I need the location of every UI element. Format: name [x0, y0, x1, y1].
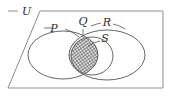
venn-diagram-figure: U P Q R S [0, 0, 171, 104]
set-label-s: S [101, 32, 109, 45]
venn-diagram-canvas: U P Q R S [0, 0, 171, 104]
set-label-q: Q [78, 15, 87, 28]
set-label-r: R [102, 16, 111, 29]
universe-label: U [22, 5, 32, 18]
r-leader-line-left [91, 23, 101, 26]
r-leader-line-right [113, 24, 125, 29]
set-label-p: P [49, 22, 58, 35]
